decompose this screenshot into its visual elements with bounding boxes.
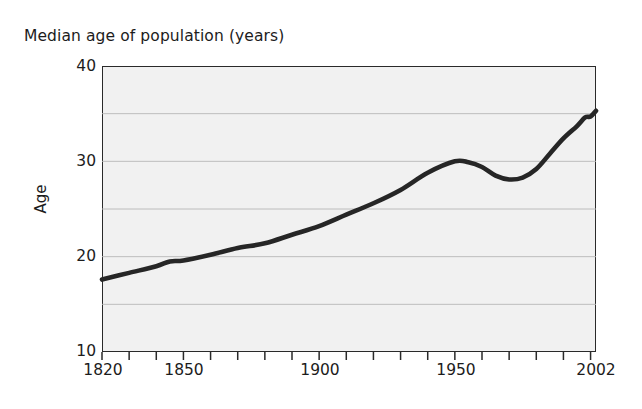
chart-figure: Median age of population (years) Age 40 …: [0, 0, 642, 409]
x-tick-label-1900: 1900: [300, 363, 339, 379]
x-tick-label-1950: 1950: [436, 363, 475, 379]
x-tick-label-2002: 2002: [576, 363, 615, 379]
x-tick-label-1820: 1820: [83, 363, 122, 379]
x-tick-label-1850: 1850: [164, 363, 203, 379]
x-axis-tick-labels: 1820 1850 1900 1950 2002: [0, 0, 642, 409]
